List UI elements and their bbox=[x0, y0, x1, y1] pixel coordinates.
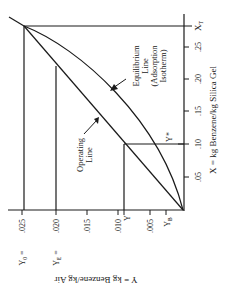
svg-text:.25: .25 bbox=[194, 42, 203, 52]
y-tick-labels: .025 .020 .015 .010 .005 bbox=[18, 219, 155, 233]
svg-text:Isotherm): Isotherm) bbox=[158, 49, 168, 82]
svg-text:XT: XT bbox=[193, 21, 204, 32]
svg-text:.15: .15 bbox=[194, 106, 203, 116]
operating-label: Operating Line bbox=[75, 137, 94, 172]
diagram-canvas: Equilibrium Line (Adsorption Isotherm) O… bbox=[0, 0, 228, 288]
svg-text:.025: .025 bbox=[18, 219, 27, 233]
xt-label: XT bbox=[193, 21, 204, 32]
operating-arrow-icon bbox=[84, 117, 99, 134]
svg-text:Y*: Y* bbox=[165, 132, 174, 142]
yb-label: YB bbox=[163, 217, 173, 227]
svg-text:.015: .015 bbox=[83, 219, 92, 233]
svg-text:.05: .05 bbox=[194, 172, 203, 182]
svg-text:.005: .005 bbox=[146, 219, 155, 233]
svg-text:YE =: YE = bbox=[52, 250, 62, 266]
x-axis-ticks bbox=[178, 26, 192, 177]
equilibrium-label: Equilibrium Line (Adsorption Isotherm) bbox=[131, 45, 168, 87]
x-axis-title: X = kg Benzene/kg Silica Gel bbox=[208, 66, 218, 174]
svg-text:Y0 =: Y0 = bbox=[18, 250, 28, 266]
equilibrium-arrow-icon bbox=[110, 79, 126, 91]
ye-label: YE = bbox=[52, 250, 62, 266]
x-tick-labels: .05 .10 .15 .20 .25 XT bbox=[193, 21, 204, 182]
svg-text:.020: .020 bbox=[52, 219, 61, 233]
svg-text:Y: Y bbox=[123, 215, 132, 221]
svg-text:.10: .10 bbox=[194, 139, 203, 149]
line-extension bbox=[9, 17, 24, 26]
y0-label: Y0 = bbox=[18, 250, 28, 266]
svg-text:Line: Line bbox=[84, 147, 94, 163]
svg-text:YB: YB bbox=[163, 217, 173, 227]
y-label: Y bbox=[123, 215, 132, 221]
svg-text:.20: .20 bbox=[194, 74, 203, 84]
y-axis-ticks bbox=[22, 210, 166, 215]
svg-text:.010: .010 bbox=[114, 219, 123, 233]
y-axis-title: Y = kg Benzene/kg Air bbox=[54, 275, 137, 285]
y-star-label: Y* bbox=[165, 132, 174, 142]
